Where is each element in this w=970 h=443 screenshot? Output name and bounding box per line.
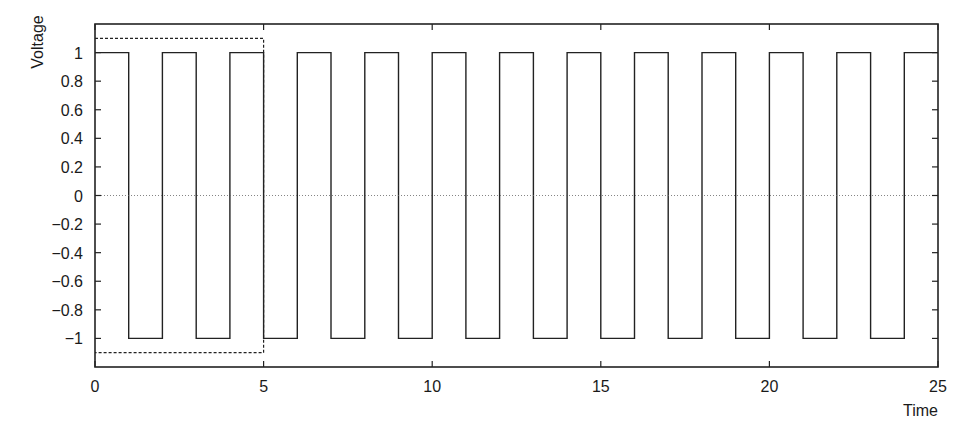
y-tick-label: 0.6 bbox=[61, 102, 83, 119]
x-tick-label: 5 bbox=[259, 378, 268, 395]
y-tick-label: −0.4 bbox=[51, 245, 83, 262]
y-tick-label: −0.8 bbox=[51, 302, 83, 319]
y-axis-label: Voltage bbox=[29, 15, 46, 68]
y-tick-label: 0 bbox=[74, 188, 83, 205]
y-tick-label: 0.8 bbox=[61, 73, 83, 90]
x-tick-label: 0 bbox=[91, 378, 100, 395]
y-tick-label: 0.2 bbox=[61, 159, 83, 176]
y-tick-label: −0.2 bbox=[51, 216, 83, 233]
y-tick-label: 0.4 bbox=[61, 130, 83, 147]
y-tick-label: −1 bbox=[65, 330, 83, 347]
plot-area bbox=[95, 38, 938, 352]
x-axis-label: Time bbox=[903, 402, 938, 419]
y-tick-label: −0.6 bbox=[51, 273, 83, 290]
x-tick-label: 20 bbox=[761, 378, 779, 395]
x-tick-label: 25 bbox=[929, 378, 947, 395]
chart: 051015202510.80.60.40.20−0.2−0.4−0.6−0.8… bbox=[0, 0, 970, 443]
y-tick-label: 1 bbox=[74, 45, 83, 62]
x-tick-label: 10 bbox=[423, 378, 441, 395]
x-tick-label: 15 bbox=[592, 378, 610, 395]
